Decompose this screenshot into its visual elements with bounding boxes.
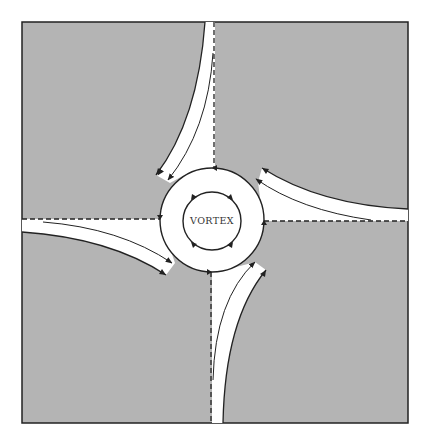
vortex-label: VORTEX bbox=[189, 215, 234, 226]
vortex-diagram: VORTEX bbox=[0, 0, 427, 440]
